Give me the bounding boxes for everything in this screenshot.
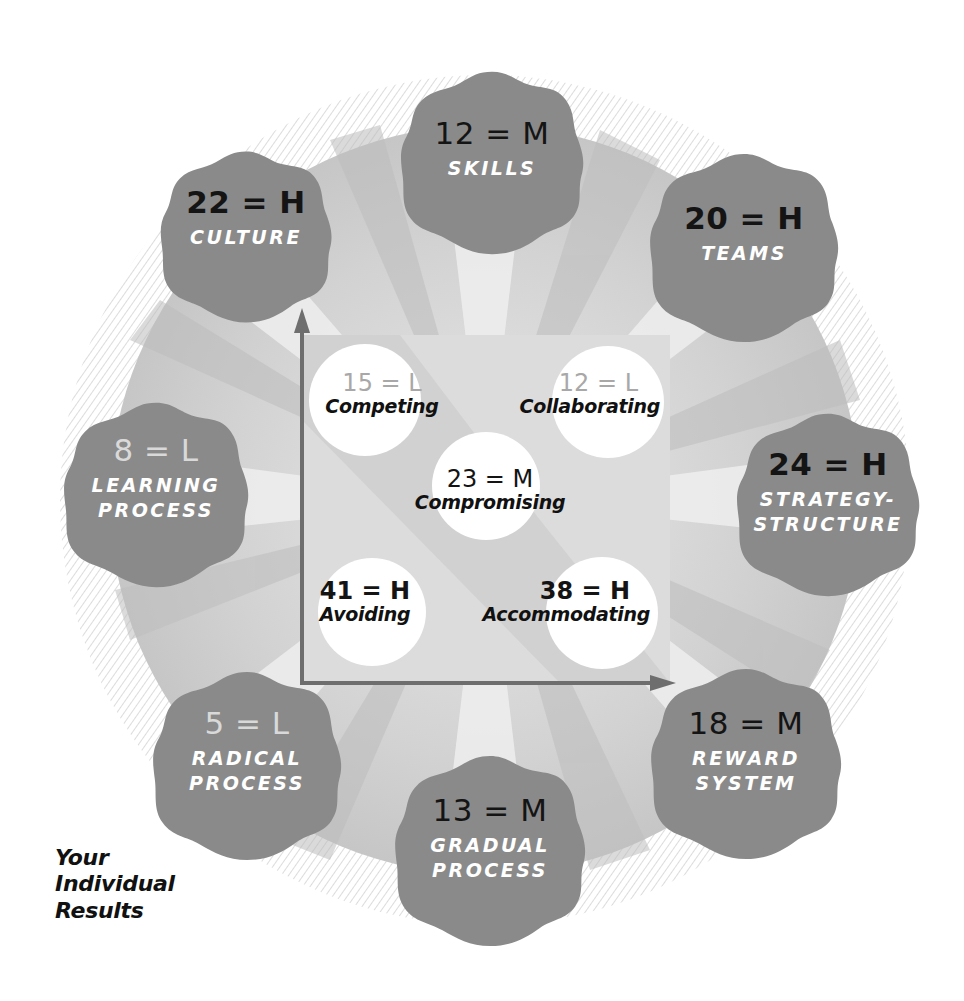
badge-label: GRADUAL [430,833,550,858]
badge-label: STRUCTURE [753,512,902,537]
badge-teams: 20 = H TEAMS [645,150,843,346]
mode-name: Compromising [400,492,580,513]
mode-compromising: 23 = M Compromising [400,466,580,513]
badge-score: 13 = M [433,793,548,827]
results-diagram: 12 = M SKILLS 20 = H TEAMS 24 = H STRATE… [0,0,964,1001]
badge-culture: 22 = H CULTURE [152,148,340,326]
mode-name: Accommodating [460,604,650,625]
badge-score: 24 = H [768,447,888,481]
mode-score: 12 = L [490,370,660,396]
badge-score: 12 = M [435,116,550,150]
mode-accommodating: 38 = H Accommodating [460,578,650,625]
mode-score: 38 = H [460,578,650,604]
badge-score: 8 = L [113,433,198,467]
caption-line: Results [55,898,175,924]
badge-label: PROCESS [432,858,548,883]
badge-score: 22 = H [186,185,306,219]
badge-score: 20 = H [684,201,804,235]
badge-score: 5 = L [204,706,289,740]
mode-score: 23 = M [400,466,580,492]
caption-line: Your [55,845,175,871]
badge-label: TEAMS [701,241,787,266]
caption-line: Individual [55,871,175,897]
badge-label: CULTURE [190,225,302,250]
badge-skills: 12 = M SKILLS [393,68,591,258]
caption-your-individual-results: Your Individual Results [55,845,175,924]
badge-learning-process: 8 = L LEARNING PROCESS [60,395,252,595]
mode-score: 41 = H [315,578,415,604]
mode-name: Collaborating [490,396,660,417]
mode-avoiding: 41 = H Avoiding [315,578,415,625]
badge-reward-system: 18 = M REWARD SYSTEM [647,665,845,863]
mode-score: 15 = L [312,370,452,396]
badge-strategy-structure: 24 = H STRATEGY- STRUCTURE [733,405,923,605]
mode-name: Competing [312,396,452,417]
badge-label: RADICAL [192,746,302,771]
badge-label: REWARD [692,746,800,771]
badge-label: PROCESS [189,771,305,796]
badge-label: PROCESS [98,498,214,523]
badge-score: 18 = M [689,706,804,740]
mode-collaborating: 12 = L Collaborating [490,370,660,417]
badge-label: SYSTEM [696,771,797,796]
badge-gradual-process: 13 = M GRADUAL PROCESS [390,752,590,950]
badge-label: SKILLS [448,156,536,181]
badge-label: STRATEGY- [760,487,896,512]
badge-radical-process: 5 = L RADICAL PROCESS [148,668,346,864]
badge-label: LEARNING [92,473,221,498]
mode-name: Avoiding [315,604,415,625]
mode-competing: 15 = L Competing [312,370,452,417]
